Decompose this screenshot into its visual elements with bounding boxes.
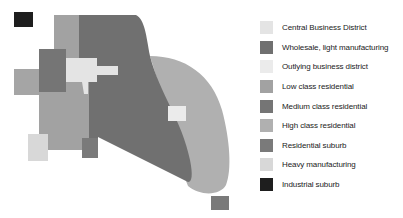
legend-label: Industrial suburb bbox=[282, 180, 339, 189]
legend-item-outlying-business: Outlying business district bbox=[260, 57, 403, 77]
swatch-icon bbox=[260, 119, 273, 132]
zone-medium-class-residential bbox=[39, 49, 66, 92]
zone-residential-suburb-bottom bbox=[82, 138, 98, 158]
zone-outlying-business-district bbox=[168, 106, 186, 121]
zone-heavy-manufacturing bbox=[28, 134, 48, 161]
legend-item-residential-suburb: Residential suburb bbox=[260, 136, 403, 156]
legend-item-heavy-manufacturing: Heavy manufacturing bbox=[260, 155, 403, 175]
legend-item-medium-class: Medium class residential bbox=[260, 96, 403, 116]
swatch-icon bbox=[260, 158, 273, 171]
swatch-icon bbox=[260, 80, 273, 93]
swatch-icon bbox=[260, 41, 273, 54]
legend-label: Outlying business district bbox=[282, 62, 368, 71]
legend-label: High class residential bbox=[282, 121, 355, 130]
swatch-icon bbox=[260, 178, 273, 191]
legend-label: Medium class residential bbox=[282, 102, 367, 111]
legend: Central Business District Wholesale, lig… bbox=[260, 18, 403, 194]
zone-low-class-residential-left bbox=[14, 69, 40, 95]
legend-item-wholesale: Wholesale, light manufacturing bbox=[260, 38, 403, 58]
swatch-icon bbox=[260, 100, 273, 113]
legend-item-high-class: High class residential bbox=[260, 116, 403, 136]
land-use-map bbox=[0, 0, 250, 218]
legend-label: Heavy manufacturing bbox=[282, 160, 356, 169]
legend-label: Residential suburb bbox=[282, 141, 346, 150]
swatch-icon bbox=[260, 139, 273, 152]
legend-label: Wholesale, light manufacturing bbox=[282, 43, 388, 52]
legend-label: Central Business District bbox=[282, 23, 367, 32]
swatch-icon bbox=[260, 60, 273, 73]
legend-item-low-class: Low class residential bbox=[260, 77, 403, 97]
legend-item-cbd: Central Business District bbox=[260, 18, 403, 38]
legend-item-industrial-suburb: Industrial suburb bbox=[260, 175, 403, 195]
legend-label: Low class residential bbox=[282, 82, 354, 91]
swatch-icon bbox=[260, 21, 273, 34]
zone-residential-suburb-right bbox=[211, 196, 229, 210]
zone-industrial-suburb bbox=[14, 12, 33, 27]
